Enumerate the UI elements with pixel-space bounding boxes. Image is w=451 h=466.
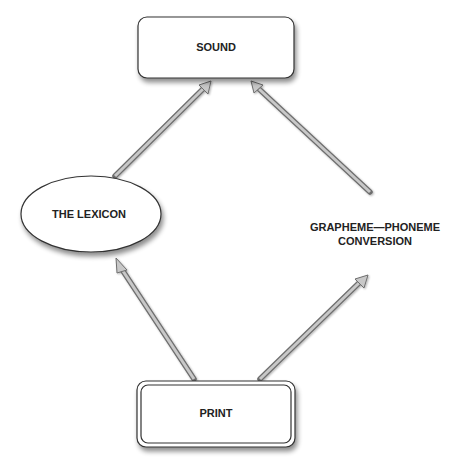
dual-route-diagram: SOUND THE LEXICON GRAPHEME—PHONEME CONVE… — [0, 0, 451, 466]
node-grapheme-phoneme-conversion: GRAPHEME—PHONEME CONVERSION — [310, 221, 440, 247]
node-lexicon-label: THE LEXICON — [52, 208, 126, 220]
node-print-label: PRINT — [200, 407, 233, 419]
node-sound-label: SOUND — [196, 41, 236, 53]
node-print: PRINT — [137, 381, 295, 447]
arrow-lexicon-to-sound — [115, 81, 211, 176]
arrow-print-to-gpc — [260, 275, 368, 379]
node-lexicon: THE LEXICON — [21, 176, 161, 252]
node-gpc-label-line1: GRAPHEME—PHONEME — [310, 221, 440, 233]
arrow-print-to-lexicon — [116, 258, 194, 379]
arrow-gpc-to-sound — [251, 81, 370, 192]
node-sound: SOUND — [138, 17, 294, 78]
node-gpc-label-line2: CONVERSION — [338, 235, 412, 247]
